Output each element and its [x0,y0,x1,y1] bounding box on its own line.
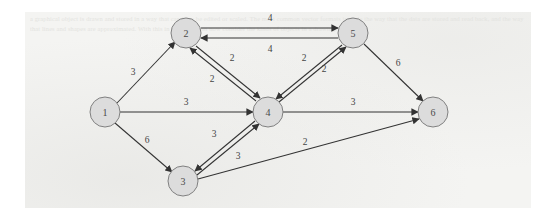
graph-node-4: 4 [253,97,283,127]
node-label-5: 5 [351,28,356,39]
edge-weight-label-1-to-2: 3 [131,67,136,77]
edge-weight-label-4-to-5: 2 [322,64,327,74]
figure-page: a graphical object is drawn and stored i… [0,0,541,216]
node-label-6: 6 [431,107,436,118]
graph-node-2: 2 [171,18,201,48]
node-label-3: 3 [181,176,186,187]
edge-weight-label-1-to-3: 6 [145,135,150,145]
graph-node-3: 3 [168,166,198,196]
node-label-2: 2 [184,28,189,39]
node-label-1: 1 [103,107,108,118]
graph-node-1: 1 [90,97,120,127]
graph-edge-5-to-4 [276,45,342,99]
edge-weight-label-2-to-4: 2 [230,53,235,63]
node-label-4: 4 [266,107,271,118]
graph-edge-2-to-4 [196,46,260,98]
graph-edge-3-to-6 [198,119,419,179]
edge-weight-label-4-to-6: 3 [351,97,356,107]
graph-node-5: 5 [338,18,368,48]
graph-edge-5-to-6 [364,44,423,101]
edge-weight-label-5-to-2: 4 [268,44,273,54]
graph-edge-4-to-5 [279,47,346,102]
edge-weight-label-1-to-4: 3 [184,97,189,107]
graph-edge-1-to-2 [117,42,175,103]
graph-edge-1-to-3 [115,123,172,172]
graph-edge-4-to-3 [195,121,255,171]
edge-weight-label-3-to-6: 2 [303,137,308,147]
edge-weight-label-2-to-5: 4 [268,13,273,23]
graph-edge-4-to-2 [190,48,256,101]
edge-weight-label-4-to-2: 2 [210,74,215,84]
graph-canvas: 33644222263332 123456 [0,0,541,216]
edge-weight-label-5-to-6: 6 [396,58,401,68]
edge-weight-label-3-to-4: 3 [236,151,241,161]
edge-weight-label-4-to-3: 3 [212,129,217,139]
graph-node-6: 6 [418,97,448,127]
graph-edge-3-to-4 [197,124,259,175]
edge-weight-label-5-to-4: 2 [302,53,307,63]
